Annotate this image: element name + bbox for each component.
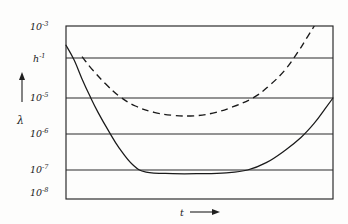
solid-curve [66, 45, 333, 174]
ytick-label-1e-6: 10-6 [30, 127, 49, 139]
chart-svg: 10-3 h-1 10-5 10-6 10-7 10-8 λ t [0, 0, 348, 224]
ytick-label-1e-8: 10-8 [30, 186, 49, 198]
up-arrow-icon [19, 72, 25, 80]
ytick-label-1e-7: 10-7 [30, 163, 49, 175]
ytick-label-1e-3: 10-3 [30, 20, 49, 32]
y-axis-label-lambda: λ [16, 114, 24, 127]
right-arrow-icon [212, 209, 220, 215]
ytick-label-h-inverse: h-1 [33, 52, 46, 64]
figure-container: 10-3 h-1 10-5 10-6 10-7 10-8 λ t [0, 0, 348, 224]
dashed-curve [82, 26, 314, 116]
x-axis-label-t: t [180, 207, 184, 218]
ytick-label-1e-5: 10-5 [30, 91, 49, 103]
